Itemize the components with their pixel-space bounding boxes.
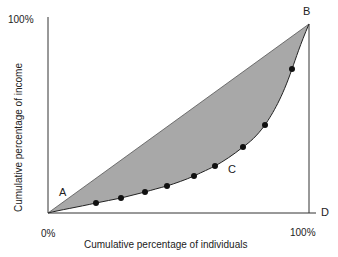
x-axis-label: Cumulative percentage of individuals xyxy=(84,240,247,250)
data-point xyxy=(240,144,246,150)
data-point xyxy=(191,173,197,179)
y-tick-100: 100% xyxy=(8,15,34,25)
data-point xyxy=(142,189,148,195)
lorenz-diagram xyxy=(0,0,338,257)
data-point xyxy=(262,122,268,128)
x-tick-100: 100% xyxy=(290,228,316,238)
y-axis-label: Cumulative percentage of income xyxy=(13,63,24,212)
label-point-b: B xyxy=(303,6,310,17)
data-point xyxy=(118,195,124,201)
label-point-d: D xyxy=(321,207,329,218)
x-tick-0: 0% xyxy=(41,229,55,239)
data-point xyxy=(212,163,218,169)
equality-line xyxy=(48,24,309,213)
data-point xyxy=(289,66,295,72)
label-point-c: C xyxy=(228,164,236,175)
data-point xyxy=(93,200,99,206)
label-point-a: A xyxy=(59,187,66,198)
data-point xyxy=(164,183,170,189)
